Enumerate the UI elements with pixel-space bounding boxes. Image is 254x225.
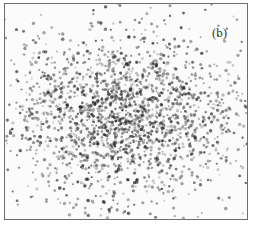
scatter-density-plot xyxy=(5,4,247,219)
plot-frame: (b) xyxy=(4,3,248,220)
panel-label: (b) xyxy=(212,25,227,41)
